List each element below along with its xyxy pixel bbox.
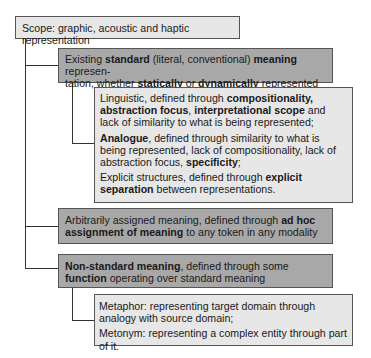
standard-meaning-box: Existing standard (literal, conventional… <box>58 48 333 83</box>
explicit-structures-item: Explicit structures, defined through exp… <box>100 171 347 195</box>
connector-to-standard <box>25 65 58 66</box>
analogue-item: Analogue, defined through similarity to … <box>100 132 347 169</box>
representation-types-box: Linguistic, defined through compositiona… <box>94 87 353 203</box>
connector-to-nonstandard <box>25 268 58 269</box>
meaning-keyword: meaning <box>253 53 297 65</box>
connector-to-types <box>72 143 94 144</box>
connector-to-arbitrary <box>25 226 58 227</box>
metonym-item: Metonym: representing a complex entity t… <box>99 327 348 351</box>
connector-to-figurative <box>72 320 94 321</box>
metaphor-item: Metaphor: representing target domain thr… <box>99 300 348 324</box>
nonstandard-keyword: Non-standard meaning <box>65 260 180 272</box>
figurative-box: Metaphor: representing target domain thr… <box>94 294 353 346</box>
scope-box: Scope: graphic, acoustic and haptic repr… <box>15 16 240 39</box>
scope-text: Scope: graphic, acoustic and haptic repr… <box>22 22 189 46</box>
standard-keyword: standard <box>105 53 150 65</box>
connector-nonstandard-vertical <box>72 287 73 320</box>
connector-standard-vertical <box>72 82 73 143</box>
linguistic-item: Linguistic, defined through compositiona… <box>100 92 347 129</box>
connector-root-vertical <box>25 38 26 268</box>
function-keyword: function <box>65 272 107 284</box>
arbitrary-meaning-box: Arbitrarily assigned meaning, defined th… <box>58 208 333 244</box>
nonstandard-meaning-box: Non-standard meaning, defined through so… <box>58 254 333 288</box>
